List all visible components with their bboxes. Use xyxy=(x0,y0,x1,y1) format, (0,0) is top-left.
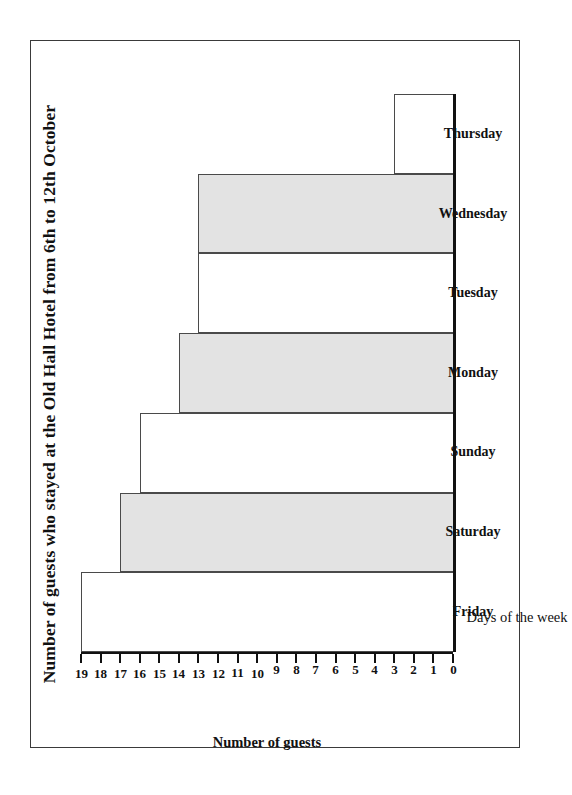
value-axis-tick-label: 1 xyxy=(430,664,437,677)
value-axis-tick-label: 13 xyxy=(192,667,205,680)
value-axis-tick-label: 11 xyxy=(231,667,243,680)
category-axis-title-text: Days of the week xyxy=(466,609,567,626)
tick-mark xyxy=(178,654,180,663)
value-axis-tick-label: 17 xyxy=(114,667,127,680)
page-border-frame: Number of guests who stayed at the Old H… xyxy=(30,40,520,748)
tick-mark xyxy=(139,654,141,663)
value-axis-tick-label: 5 xyxy=(352,664,359,677)
value-axis-tick-label: 2 xyxy=(411,664,418,677)
tick-mark xyxy=(80,654,82,663)
value-axis: 012345678910111213141516171819 xyxy=(81,652,453,674)
bar-slot xyxy=(81,174,453,254)
value-axis-tick-label: 19 xyxy=(75,667,88,680)
tick-mark xyxy=(119,654,121,663)
value-axis-tick-label: 14 xyxy=(172,667,185,680)
tick-mark xyxy=(158,654,160,663)
value-axis-tick-label: 12 xyxy=(212,667,225,680)
value-axis-tick-label: 0 xyxy=(450,664,457,677)
tick-mark xyxy=(197,654,199,663)
category-axis-title: Days of the week xyxy=(178,373,572,626)
value-axis-tick-label: 3 xyxy=(391,664,398,677)
bar-wednesday[interactable] xyxy=(198,174,453,254)
tick-mark xyxy=(237,654,239,663)
category-label-slot: Thursday xyxy=(457,94,481,174)
value-axis-tick-label: 16 xyxy=(133,667,146,680)
tick-mark xyxy=(100,654,102,663)
value-axis-title: Number of guests xyxy=(81,734,453,756)
bar-slot xyxy=(81,94,453,174)
category-label-wednesday: Wednesday xyxy=(439,206,507,222)
value-axis-tick-label: 15 xyxy=(153,667,166,680)
value-axis-tick-label: 8 xyxy=(293,664,300,677)
value-axis-tick-label: 10 xyxy=(251,667,264,680)
category-label-slot: Wednesday xyxy=(457,174,481,254)
category-label-tuesday: Tuesday xyxy=(448,285,497,301)
value-axis-tick-label: 6 xyxy=(332,664,339,677)
chart-title: Number of guests who stayed at the Old H… xyxy=(39,44,60,744)
value-axis-tick-label: 9 xyxy=(274,664,281,677)
chart-figure: Number of guests who stayed at the Old H… xyxy=(35,44,515,744)
bar-tuesday[interactable] xyxy=(198,253,453,333)
tick-mark xyxy=(217,654,219,663)
value-axis-tick-label: 18 xyxy=(94,667,107,680)
value-axis-tick-label: 4 xyxy=(371,664,378,677)
value-axis-tick-label: 7 xyxy=(313,664,320,677)
tick-mark xyxy=(256,654,258,663)
category-label-thursday: Thursday xyxy=(444,126,502,142)
category-label-slot: Tuesday xyxy=(457,253,481,333)
bar-slot xyxy=(81,253,453,333)
